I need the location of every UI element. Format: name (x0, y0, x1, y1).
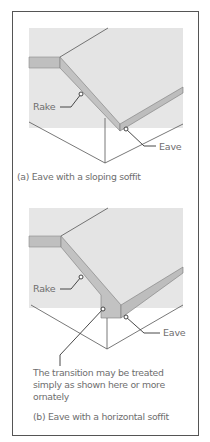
rake-edge-left-b (29, 236, 61, 247)
eave-label-b: Eave (163, 327, 186, 338)
rake-edge-left-a (29, 57, 60, 68)
caption-a: (a) Eave with a sloping soffit (17, 171, 141, 182)
rake-label-b: Rake (33, 283, 55, 294)
caption-b: (b) Eave with a horizontal soffit (33, 411, 169, 422)
transition-note: The transition may be treated simply as … (33, 367, 193, 403)
rake-label-a: Rake (33, 101, 55, 112)
eave-label-a: Eave (159, 141, 182, 152)
